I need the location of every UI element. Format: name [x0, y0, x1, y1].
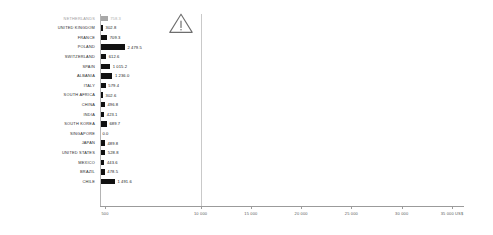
bar-value-label: 579.4	[108, 82, 119, 89]
bar-row[interactable]: FRANCE709.3	[0, 33, 493, 43]
bar-row[interactable]: SINGAPORE0.0	[0, 129, 493, 139]
bar[interactable]	[100, 44, 125, 49]
bar[interactable]	[100, 73, 112, 78]
bar-category-label: ALBANIA	[5, 72, 95, 80]
x-axis-tick	[351, 206, 352, 209]
bar-row[interactable]: ITALY579.4	[0, 81, 493, 91]
bar-category-label: NETHERLANDS	[5, 15, 95, 23]
bar-row[interactable]: SPAIN1 015.2	[0, 62, 493, 72]
bar-value-label: 689.7	[109, 120, 120, 127]
bar-row[interactable]: BRAZIL478.5	[0, 168, 493, 178]
bar-category-label: SOUTH KOREA	[5, 120, 95, 128]
bar-row[interactable]: SOUTH AFRICA302.6	[0, 91, 493, 101]
bar-category-label: JAPAN	[5, 139, 95, 147]
x-axis-tick	[201, 206, 202, 209]
bar-value-label: 423.1	[107, 111, 118, 118]
bar-value-label: 478.5	[107, 168, 118, 175]
bar-value-label: 1 491.6	[118, 178, 132, 185]
bar-value-label: 443.6	[107, 159, 118, 166]
bar-value-label: 496.8	[107, 101, 118, 108]
bar-row[interactable]: CHILE1 491.6	[0, 177, 493, 187]
bar-row[interactable]: INDIA423.1	[0, 110, 493, 120]
bar-category-label: SWITZERLAND	[5, 53, 95, 61]
bar-category-label: CHINA	[5, 101, 95, 109]
bar-row[interactable]: ALBANIA1 236.0	[0, 72, 493, 82]
bar[interactable]	[100, 121, 107, 126]
bar-category-label: SINGAPORE	[5, 130, 95, 138]
bar-category-label: CHILE	[5, 178, 95, 186]
bar-row[interactable]: JAPAN489.8	[0, 139, 493, 149]
bar-category-label: UNITED KINGDOM	[5, 24, 95, 32]
x-axis-line	[100, 206, 464, 207]
bar-value-label: 1 236.0	[115, 72, 129, 79]
x-axis-tick-label: 30 000	[395, 211, 408, 216]
x-axis-tick-label: 20 000	[295, 211, 308, 216]
bar-value-label: 612.6	[109, 53, 120, 60]
bar-value-label: 302.8	[106, 24, 117, 31]
bar[interactable]	[100, 35, 107, 40]
bar-value-label: 489.8	[107, 140, 118, 147]
axis-origin-line	[100, 14, 101, 206]
bar-row[interactable]: POLAND2 479.5	[0, 43, 493, 53]
bar-category-label: FRANCE	[5, 34, 95, 42]
bar-row[interactable]: MEXICO443.6	[0, 158, 493, 168]
warning-triangle-icon[interactable]	[168, 12, 194, 34]
gridline	[201, 14, 202, 206]
bar-row[interactable]: NETHERLANDS758.3	[0, 14, 493, 24]
bar-category-label: SOUTH AFRICA	[5, 91, 95, 99]
bar-row[interactable]: UNITED STATES528.8	[0, 148, 493, 158]
bar[interactable]	[100, 16, 108, 21]
x-axis-tick-label: 500	[101, 211, 108, 216]
bar-category-label: ITALY	[5, 82, 95, 90]
bar-row[interactable]: CHINA496.8	[0, 100, 493, 110]
bar-value-label: 302.6	[106, 92, 117, 99]
bar[interactable]	[100, 179, 115, 184]
bar-category-label: INDIA	[5, 111, 95, 119]
bar-value-label: 1 015.2	[113, 63, 127, 70]
bar-category-label: UNITED STATES	[5, 149, 95, 157]
x-axis-tick	[105, 206, 106, 209]
bar-category-label: MEXICO	[5, 159, 95, 167]
bar[interactable]	[100, 64, 110, 69]
bar-row[interactable]: SOUTH KOREA689.7	[0, 120, 493, 130]
x-axis-tick	[301, 206, 302, 209]
bar-value-label: 528.8	[108, 149, 119, 156]
bar-row[interactable]: SWITZERLAND612.6	[0, 52, 493, 62]
bar-value-label: 709.3	[110, 34, 121, 41]
bar-value-label: 758.3	[110, 15, 121, 22]
x-axis-tick	[251, 206, 252, 209]
bar-category-label: POLAND	[5, 43, 95, 51]
x-axis-tick-label: 35 000 US$	[441, 211, 464, 216]
bar-category-label: SPAIN	[5, 63, 95, 71]
x-axis-tick	[402, 206, 403, 209]
bar-value-label: 2 479.5	[127, 44, 141, 51]
bar-value-label: 0.0	[103, 130, 109, 137]
bar-category-label: BRAZIL	[5, 168, 95, 176]
x-axis-tick-label: 15 000	[244, 211, 257, 216]
x-axis-tick-label: 25 000	[345, 211, 358, 216]
x-axis-tick-label: 10 000	[194, 211, 207, 216]
bar-row[interactable]: UNITED KINGDOM302.8	[0, 24, 493, 34]
x-axis-tick	[452, 206, 453, 209]
horizontal-bar-chart: NETHERLANDS758.3UNITED KINGDOM302.8FRANC…	[0, 0, 493, 235]
